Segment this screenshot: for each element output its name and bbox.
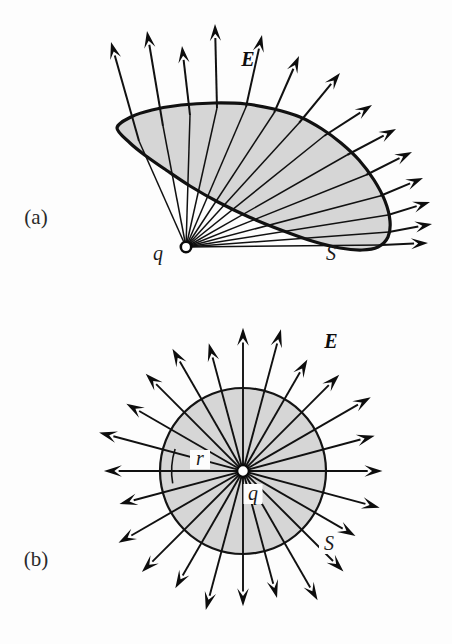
- panel-label-a: (a): [24, 205, 47, 229]
- point-charge-marker-a: [181, 242, 191, 252]
- open-surface-S-shape: [117, 103, 390, 250]
- field-label-E-b: E: [323, 330, 337, 352]
- panel-b: r q S E (b): [24, 328, 383, 610]
- surface-label-S-a: S: [326, 242, 336, 264]
- surface-label-S-b: S: [324, 532, 334, 554]
- gauss-law-figure-svg: (a) q S E r q S E (b): [0, 0, 452, 644]
- field-label-E-a: E: [240, 48, 254, 70]
- charge-label-q-b: q: [248, 482, 258, 505]
- radius-label-r: r: [196, 447, 204, 469]
- panel-label-b: (b): [24, 547, 49, 571]
- charge-label-q-a: q: [153, 242, 163, 265]
- physics-figure: (a) q S E r q S E (b): [0, 0, 452, 644]
- point-charge-marker-b: [237, 465, 249, 477]
- panel-a: (a) q S E: [24, 24, 432, 265]
